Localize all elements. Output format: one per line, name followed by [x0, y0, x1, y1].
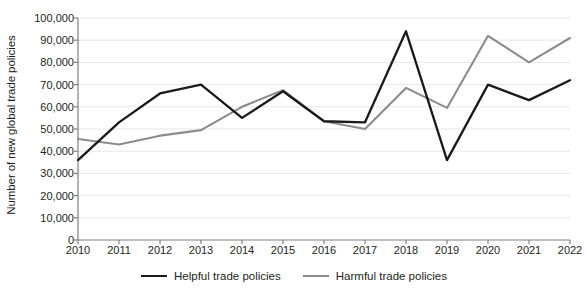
legend-item-harmful: Harmful trade policies — [303, 270, 447, 282]
x-axis-tick-label: 2010 — [66, 244, 90, 256]
x-axis-tick-label: 2018 — [394, 244, 418, 256]
legend-item-helpful: Helpful trade policies — [141, 270, 281, 282]
gridlines — [78, 18, 570, 218]
series-line-harmful — [78, 36, 570, 145]
x-axis-tick-label: 2021 — [517, 244, 541, 256]
x-axis-tick-label: 2014 — [230, 244, 254, 256]
x-axis-tick-label: 2017 — [353, 244, 377, 256]
x-axis-tick-label: 2022 — [558, 244, 582, 256]
chart-legend: Helpful trade policies Harmful trade pol… — [0, 270, 588, 282]
legend-line-swatch-helpful — [141, 275, 167, 277]
line-chart-figure: Number of new global trade policies 010,… — [0, 0, 588, 298]
x-axis-tick-label: 2013 — [189, 244, 213, 256]
legend-label-harmful: Harmful trade policies — [336, 270, 447, 282]
series-line-helpful — [78, 31, 570, 160]
legend-label-helpful: Helpful trade policies — [174, 270, 281, 282]
data-series-lines — [78, 31, 570, 160]
legend-line-swatch-harmful — [303, 275, 329, 277]
x-axis-tick-label: 2016 — [312, 244, 336, 256]
x-axis-tick-label: 2020 — [476, 244, 500, 256]
x-axis-tick-label: 2012 — [148, 244, 172, 256]
x-axis-tick-label: 2011 — [107, 244, 131, 256]
x-axis-tick-label: 2019 — [435, 244, 459, 256]
x-axis-tick-label: 2015 — [271, 244, 295, 256]
